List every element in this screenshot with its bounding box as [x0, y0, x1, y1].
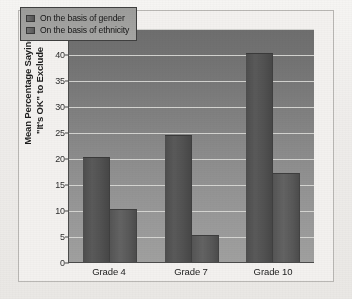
- bar-gender[interactable]: [246, 53, 273, 262]
- bar-group: [69, 29, 151, 262]
- y-axis-tick-label: 15: [55, 180, 65, 190]
- y-axis-title-line1: Mean Percentage Saying: [22, 36, 33, 145]
- bar-ethnicity[interactable]: [192, 235, 219, 262]
- bar-group: [151, 29, 233, 262]
- bar-group: [232, 29, 314, 262]
- ethnicity-swatch-icon: [26, 27, 35, 34]
- bar-gender[interactable]: [83, 157, 110, 262]
- bar-groups: [69, 29, 314, 262]
- gender-swatch-icon: [26, 15, 35, 22]
- legend-item[interactable]: On the basis of gender: [26, 12, 129, 24]
- chart-legend: On the basis of genderOn the basis of et…: [20, 7, 137, 41]
- y-axis-tick-label: 20: [55, 154, 65, 164]
- y-axis-tick-label: 25: [55, 128, 65, 138]
- legend-item[interactable]: On the basis of ethnicity: [26, 24, 129, 36]
- x-axis-label: Grade 4: [68, 266, 150, 277]
- y-axis-tick-label: 35: [55, 76, 65, 86]
- y-axis-tick-label: 30: [55, 102, 65, 112]
- y-axis-tick-label: 10: [55, 206, 65, 216]
- plot-area: [68, 29, 314, 263]
- x-axis-labels: Grade 4Grade 7Grade 10: [68, 266, 314, 277]
- x-axis-label: Grade 10: [232, 266, 314, 277]
- legend-label: On the basis of gender: [40, 13, 125, 23]
- x-axis-label: Grade 7: [150, 266, 232, 277]
- bar-ethnicity[interactable]: [110, 209, 137, 262]
- legend-label: On the basis of ethnicity: [40, 25, 129, 35]
- y-axis-tick-label: 40: [55, 50, 65, 60]
- bar-gender[interactable]: [165, 135, 192, 262]
- figure-container: Mean Percentage Saying "It's OK" to Excl…: [0, 0, 352, 299]
- bar-ethnicity[interactable]: [273, 173, 300, 262]
- y-axis-ticks: 454035302520151050: [40, 29, 65, 263]
